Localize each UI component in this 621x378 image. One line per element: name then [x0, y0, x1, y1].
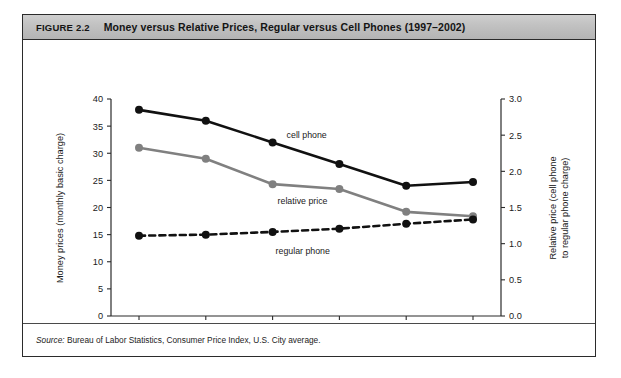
- figure-container: FIGURE 2.2 Money versus Relative Prices,…: [22, 14, 596, 357]
- right-tick-label: 3.0: [509, 94, 522, 104]
- right-tick-label: 2.5: [509, 131, 522, 141]
- right-axis-title-line2: to regular phone charge): [560, 158, 570, 259]
- series-annotation-relative-price: relative price: [278, 196, 328, 206]
- left-tick-label: 15: [93, 230, 103, 240]
- data-point: [469, 178, 477, 186]
- data-point: [202, 155, 210, 163]
- source-label: Source:: [36, 335, 65, 345]
- right-tick-label: 1.5: [509, 203, 522, 213]
- chart-series-layer: [135, 106, 477, 240]
- data-point: [402, 220, 410, 228]
- data-point: [269, 138, 277, 146]
- source-note-bar: Source: Bureau of Labor Statistics, Cons…: [23, 323, 595, 356]
- line-chart: 0510152025303540 0.00.51.01.52.02.53.0 1…: [23, 40, 594, 323]
- data-point: [135, 144, 143, 152]
- series-cell-phone: [135, 106, 477, 190]
- data-point: [335, 185, 343, 193]
- data-point: [202, 231, 210, 239]
- left-tick-label: 0: [98, 311, 103, 321]
- left-tick-label: 30: [93, 149, 103, 159]
- series-annotation-cell-phone: cell phone: [287, 130, 327, 140]
- data-point: [135, 106, 143, 114]
- left-tick-label: 10: [93, 257, 103, 267]
- left-tick-label: 35: [93, 122, 103, 132]
- chart-plot-area: 0510152025303540 0.00.51.01.52.02.53.0 1…: [23, 40, 595, 323]
- chart-series-annotations: cell phonerelative priceregular phone: [276, 130, 330, 256]
- right-tick-label: 1.0: [509, 239, 522, 249]
- data-point: [469, 215, 477, 223]
- data-point: [402, 208, 410, 216]
- data-point: [135, 232, 143, 240]
- data-point: [335, 225, 343, 233]
- left-tick-label: 40: [93, 94, 103, 104]
- left-tick-label: 25: [93, 176, 103, 186]
- left-tick-label: 5: [98, 284, 103, 294]
- left-axis-title: Money prices (monthly basic charge): [55, 133, 65, 283]
- right-tick-label: 0.5: [509, 275, 522, 285]
- data-point: [202, 117, 210, 125]
- right-axis-title: Relative price (cell phone to regular ph…: [548, 156, 570, 259]
- right-tick-label: 2.0: [509, 167, 522, 177]
- source-note: Source: Bureau of Labor Statistics, Cons…: [36, 335, 321, 345]
- figure-title-bar: FIGURE 2.2 Money versus Relative Prices,…: [23, 15, 595, 40]
- right-tick-label: 0.0: [509, 311, 522, 321]
- series-line: [139, 219, 473, 235]
- left-tick-label: 20: [93, 203, 103, 213]
- figure-number-label: FIGURE 2.2: [36, 22, 90, 33]
- data-point: [335, 160, 343, 168]
- left-axis-tick-labels: 0510152025303540: [93, 94, 103, 321]
- series-annotation-regular-phone: regular phone: [276, 246, 330, 256]
- data-point: [402, 182, 410, 190]
- figure-title: Money versus Relative Prices, Regular ve…: [104, 21, 466, 33]
- data-point: [269, 180, 277, 188]
- data-point: [269, 228, 277, 236]
- right-axis-title-line1: Relative price (cell phone: [548, 156, 558, 259]
- series-regular-phone: [135, 215, 477, 239]
- right-axis-tick-labels: 0.00.51.01.52.02.53.0: [509, 94, 522, 321]
- source-text: Bureau of Labor Statistics, Consumer Pri…: [65, 335, 321, 345]
- series-relative-price: [135, 144, 477, 220]
- series-line: [139, 110, 473, 186]
